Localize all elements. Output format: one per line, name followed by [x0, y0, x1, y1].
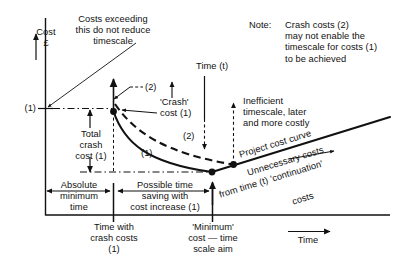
note-body: Crash costs (2) may not enable the times…	[285, 20, 397, 65]
minimum-cost-point-marker	[209, 169, 216, 176]
time-with-crash-costs-label: Time with crash costs (1)	[74, 222, 154, 256]
crash-point-marker	[110, 108, 117, 115]
time-t-point-marker	[230, 161, 237, 168]
time-t-label: Time (t)	[196, 61, 256, 72]
crash-2-label: (2)	[145, 82, 171, 93]
curve-1-label: (1)	[141, 148, 167, 159]
costs-exceeding-leader	[48, 43, 136, 107]
crash-cost-1-leader	[122, 110, 157, 113]
y-tick-label-1: (1)	[6, 103, 36, 114]
crash-cost-1-label: 'Crash' cost (1)	[160, 97, 220, 119]
absolute-minimum-time-label: Absolute minimum time	[48, 180, 110, 214]
curve-2-label: (2)	[183, 131, 209, 142]
minimum-cost-time-aim-label: 'Minimum' cost — time scale aim	[174, 222, 252, 256]
total-crash-cost-label: Total crash cost (1)	[62, 129, 120, 163]
x-axis-label-time: Time	[286, 235, 330, 246]
diagram-canvas: Cost £ (1) Costs exceeding this do not r…	[0, 0, 397, 269]
crash-2-leader	[114, 87, 130, 99]
costs-exceeding-note: Costs exceeding this do not reduce times…	[58, 14, 168, 48]
possible-time-saving-label: Possible time saving with cost increase …	[120, 180, 210, 214]
note-heading: Note:	[249, 20, 285, 31]
